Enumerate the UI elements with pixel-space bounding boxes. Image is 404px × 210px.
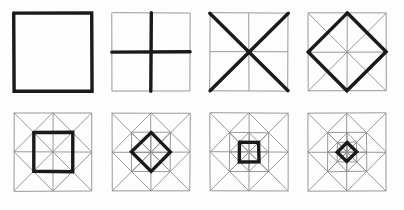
- panel-inner-square: [14, 113, 92, 192]
- panel-diagonals: [210, 13, 289, 91]
- panel-inner-diamond: [112, 113, 191, 192]
- panel-inner-diamond-2: [308, 113, 386, 192]
- panel-cross: [112, 13, 190, 92]
- panel-inner-square-2: [210, 113, 289, 191]
- geometric-construction-sheet: [0, 0, 404, 210]
- panel-outer-square: [14, 13, 92, 91]
- construction-sequence-svg: [0, 0, 404, 210]
- panel-diamond: [308, 13, 386, 92]
